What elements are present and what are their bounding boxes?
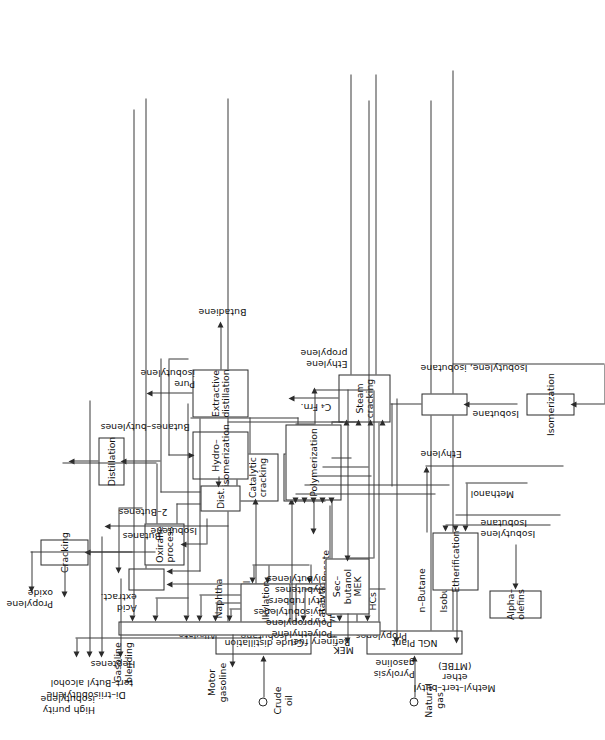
line-oxirane-out-v [62, 462, 156, 463]
line-alpha-olefins-feed [515, 544, 516, 584]
arrow-blend-in-6 [226, 615, 232, 621]
arrow-cracking-out [61, 591, 67, 597]
arrow-mek-out [344, 637, 350, 643]
line-catcrack-out [249, 417, 250, 453]
arrow-ethylene [423, 466, 429, 472]
arrow-into-isom [570, 401, 576, 407]
arrow-butadiene [217, 321, 223, 327]
line-mek-feed [347, 389, 348, 558]
line-hydroisom-feed-drop [168, 358, 188, 359]
arrow-poly-in-2 [301, 497, 307, 503]
arrow-into-acid-extract [115, 567, 121, 573]
label-isobutylene-ether: Isobutylene [480, 527, 535, 538]
line-isom-feed-h [604, 364, 605, 404]
line-poly-feed-3 [313, 475, 371, 476]
unit-steam-cracking-label: Steam cracking [354, 378, 375, 418]
line-acid-extract-feed-2 [172, 570, 200, 571]
line-blend-feed-3 [187, 597, 188, 615]
arrow-high-purity-isobutylene [73, 651, 79, 657]
line-propylene-oxide-v [30, 551, 155, 552]
line-naphtha [227, 98, 228, 630]
line-2-butenes-up [176, 503, 200, 504]
line-into-isom [574, 403, 604, 404]
label-high-purity-isobutylene: High purity isobutylene [40, 693, 95, 714]
line-mek-feed-riser [313, 389, 373, 390]
line-mek-out [347, 613, 348, 638]
arrow-acid-extract-in-1 [166, 581, 172, 587]
arrow-tba [98, 651, 104, 657]
line-dist-top [160, 491, 200, 492]
line-ethylene [426, 470, 427, 532]
line-poly-to-mek-bus [314, 390, 315, 424]
line-oxirane-out [156, 463, 157, 523]
arrow-steam-cracking-4 [379, 419, 385, 425]
line-blend-feed-4 [200, 595, 201, 615]
unit-alpha-olefins[interactable]: Alpha–olefins [489, 590, 541, 618]
arrow-poly-in-4 [319, 497, 325, 503]
unit-gasoline-blending[interactable] [118, 621, 380, 635]
label-mek: MEK [333, 643, 353, 654]
line-high-purity-isobutylene [76, 638, 77, 652]
unit-isomerization[interactable]: Isomerization [526, 393, 574, 415]
line-into-distillation [124, 460, 160, 461]
line-cracking-out [64, 564, 65, 592]
line-methanol-v [465, 482, 527, 483]
line-into-acid-extract-v [118, 507, 142, 508]
line-poly-feed-4 [322, 466, 368, 467]
unit-dehydrogenation[interactable] [421, 393, 467, 415]
label-acid-extract: Acid extract. [100, 591, 136, 612]
unit-sec-butanol-mek[interactable]: Sec–butanol MEK [325, 558, 369, 614]
line-blend-feed-2h [187, 403, 188, 598]
unit-catalytic-cracking-label: Catalytic cracking [247, 457, 268, 498]
line-isobutene-to-oxirane [206, 518, 207, 544]
arrow-blend-in-4 [196, 615, 202, 621]
unit-polymerization[interactable]: Polymerization [285, 424, 341, 500]
label-pure-isobutylene: Pure isobutylene [140, 367, 195, 388]
line-c4-frn [292, 397, 338, 398]
arrow-blend-in-2 [152, 615, 158, 621]
line-distillation-out [72, 460, 98, 461]
line-blend-feed-5 [216, 603, 217, 615]
label-isobutylene-isobutane: Isobutylene, isobutane [420, 361, 527, 372]
arrow-blend-in-1 [129, 615, 135, 621]
arrow-ether-in-1 [442, 525, 448, 531]
label-crude-oil: Crude oil [272, 684, 293, 716]
label-ethylene-propylene: Ethylene propylene [300, 347, 347, 368]
label-mtbe: Methyl–tert–butyl ether (MTBE) [404, 660, 505, 692]
line-poly-to-mek-v [295, 423, 314, 424]
line-blend-feed-6v [229, 608, 240, 609]
line-blend-feed-6 [230, 609, 231, 615]
arrow-pure-isobutylene [146, 390, 152, 396]
line-heptenes [120, 578, 121, 652]
line-poly-feed-2 [304, 484, 449, 485]
line-blend-feed-4v [199, 594, 240, 595]
arrow-poly-in-1 [292, 497, 298, 503]
unit-extractive-distillation[interactable]: Extractive distillation [192, 369, 248, 417]
line-acid-extract-feed-2h [199, 418, 200, 571]
line-di-triisobutylene [89, 400, 90, 652]
line-blend-feed-2v [155, 597, 187, 598]
label-ethylene: Ethylene [420, 447, 461, 458]
arrow-heptenes [117, 651, 123, 657]
arrow-into-dehydro [463, 401, 469, 407]
label-motor-gasoline: Motor gasoline [206, 660, 227, 704]
unit-etherification[interactable]: Etherification [432, 532, 478, 590]
line-poly-feed-5 [331, 457, 351, 458]
line-dehydro-out-h [391, 403, 392, 486]
unit-dist[interactable]: Dist. [200, 485, 240, 511]
line-butanes [108, 525, 228, 526]
unit-sec-butanol-mek-label: Sec–butanol MEK [331, 560, 362, 612]
natural-gas-source-circle [409, 697, 418, 706]
unit-steam-cracking[interactable]: Steam cracking [338, 374, 390, 422]
line-field-cond-to-steam [331, 421, 359, 422]
crude-oil-source-circle [258, 697, 267, 706]
line-mek-feed-2 [373, 390, 374, 558]
line-into-oxirane [184, 543, 206, 544]
line-acid-extract-right [145, 98, 146, 568]
line-crude-oil [263, 659, 264, 697]
line-steam-out-2 [375, 74, 376, 374]
arrow-hydroisom-to-dist [215, 481, 221, 487]
line-poly-feed-1 [295, 493, 435, 494]
